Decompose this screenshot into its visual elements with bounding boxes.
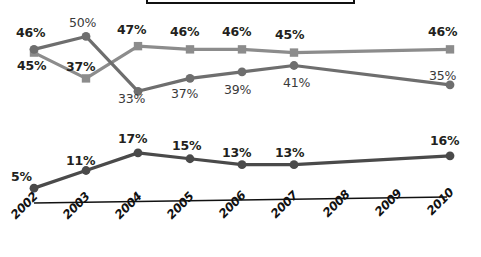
data-label: 33%: [118, 93, 145, 106]
data-label: 35%: [429, 70, 456, 83]
data-label: 46%: [170, 26, 199, 39]
data-label: 15%: [172, 140, 201, 153]
data-label: 37%: [171, 88, 198, 101]
data-label: 41%: [283, 77, 310, 90]
data-label: 46%: [222, 26, 251, 39]
data-label: 37%: [66, 61, 95, 74]
data-label: 39%: [224, 84, 251, 97]
data-label: 46%: [428, 26, 457, 39]
chart-page: 45% 37% 47% 46% 46% 45% 46% 46% 50% 33% …: [0, 0, 481, 257]
data-label: 16%: [430, 135, 459, 148]
data-label: 5%: [11, 171, 32, 184]
data-label: 47%: [117, 24, 146, 37]
data-label: 13%: [275, 147, 304, 160]
data-label: 46%: [16, 27, 45, 40]
data-label: 13%: [222, 147, 251, 160]
data-label: 45%: [17, 60, 46, 73]
data-label: 50%: [69, 17, 96, 30]
data-label: 17%: [118, 133, 147, 146]
data-label: 45%: [275, 29, 304, 42]
data-label: 11%: [66, 155, 95, 168]
